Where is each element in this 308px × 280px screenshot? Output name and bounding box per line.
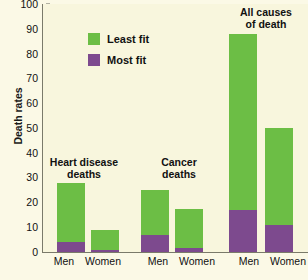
bar-segment-most-fit [57,242,85,252]
legend-item-most-fit: Most fit [88,54,149,66]
plot-area [42,4,308,253]
y-axis-ticks: 1009080706050403020100 [8,0,38,280]
y-tick-label-10: 10 [12,222,38,233]
y-tick-label-90: 90 [12,24,38,35]
bar-segment-least-fit [175,209,203,252]
y-tick-label-0: 0 [12,246,38,257]
bars-layer [43,4,308,252]
bar-women-3 [175,209,203,252]
x-label-men-cancer: Men [137,255,179,267]
y-tick-label-40: 40 [12,147,38,158]
bar-men-2 [141,190,169,252]
y-tick-label-80: 80 [12,48,38,59]
y-tick-label-30: 30 [12,172,38,183]
bar-women-1 [91,230,119,252]
group-label-cancer: Cancer deaths [140,156,218,180]
bar-segment-most-fit [265,225,293,252]
bar-segment-most-fit [91,250,119,252]
y-tick-label-20: 20 [12,197,38,208]
x-label-men-heart: Men [43,255,85,267]
y-tick-label-60: 60 [12,98,38,109]
legend: Least fit Most fit [88,33,149,75]
x-label-men-all: Men [228,255,270,267]
bar-women-5 [265,128,293,252]
group-label-heart-disease: Heart disease deaths [40,156,128,180]
group-label-all-causes: All causes of death [228,6,304,30]
bar-men-0 [57,183,85,252]
y-tick-label-50: 50 [12,123,38,134]
bar-men-4 [229,34,257,252]
legend-item-least-fit: Least fit [88,33,149,45]
y-tick-label-100: 100 [12,0,38,9]
bar-segment-most-fit [141,235,169,252]
bar-segment-most-fit [175,248,203,252]
bar-segment-most-fit [229,210,257,252]
legend-label-least-fit: Least fit [107,33,149,45]
y-tick-label-70: 70 [12,73,38,84]
x-label-women-all: Women [267,255,308,267]
legend-swatch-green-icon [88,33,100,45]
legend-label-most-fit: Most fit [107,54,146,66]
x-label-women-cancer: Women [176,255,218,267]
legend-swatch-purple-icon [88,54,100,66]
x-label-women-heart: Women [82,255,124,267]
chart-container: Death rates 1009080706050403020100 Heart… [0,0,308,280]
